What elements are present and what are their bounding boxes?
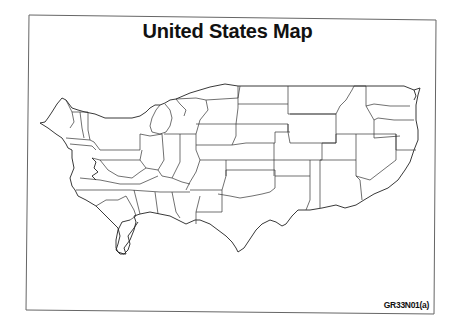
michigan-outline — [150, 104, 172, 134]
oregon-border — [366, 104, 410, 106]
map-frame — [0, 0, 455, 332]
wa-or-border — [374, 118, 414, 120]
wyoming-border — [288, 114, 336, 143]
idaho-border — [354, 86, 400, 138]
pa-south-border — [92, 150, 142, 160]
figure-id-label: GR33N01(a) — [384, 300, 429, 310]
michigan-upper — [176, 99, 186, 116]
va-border — [80, 176, 158, 184]
arkansas-border — [196, 190, 222, 212]
ohio-border — [140, 134, 164, 170]
mn-iowa-border — [196, 86, 238, 124]
nebraska-border — [232, 132, 290, 145]
chesapeake-detail — [92, 158, 98, 180]
nevada-border — [356, 134, 396, 180]
puget-sound-detail — [414, 90, 416, 100]
sc-border — [96, 196, 126, 206]
illinois-border — [180, 134, 200, 190]
ny-pa-border — [94, 134, 140, 150]
indiana-border — [164, 134, 180, 178]
ms-la-border — [172, 192, 180, 218]
map-title: United States Map — [0, 20, 455, 43]
iowa-border — [196, 124, 236, 145]
nc-tn-border — [76, 190, 190, 192]
nm-border — [310, 160, 320, 208]
missouri-border — [190, 160, 226, 190]
wisconsin-border — [176, 98, 208, 134]
az-border — [320, 160, 362, 200]
colorado-border — [274, 143, 322, 160]
frame-border — [26, 15, 436, 314]
nh-vt-border — [72, 112, 84, 138]
ga-al-border — [134, 190, 140, 214]
sd-border — [236, 124, 288, 132]
maine-border — [66, 100, 74, 128]
utah-border — [322, 134, 356, 160]
ct-ri-border — [70, 144, 96, 150]
nd-sd-border — [238, 86, 288, 104]
texas-north-border — [218, 176, 310, 210]
national-outline — [40, 84, 420, 254]
minnesota-border — [206, 86, 240, 100]
montana-border — [288, 86, 354, 114]
oklahoma-border — [226, 170, 275, 176]
kansas-border — [226, 160, 274, 176]
al-ms-border — [155, 192, 158, 214]
ky-border — [158, 170, 190, 184]
us-map — [40, 84, 420, 254]
wv-border — [100, 160, 146, 178]
